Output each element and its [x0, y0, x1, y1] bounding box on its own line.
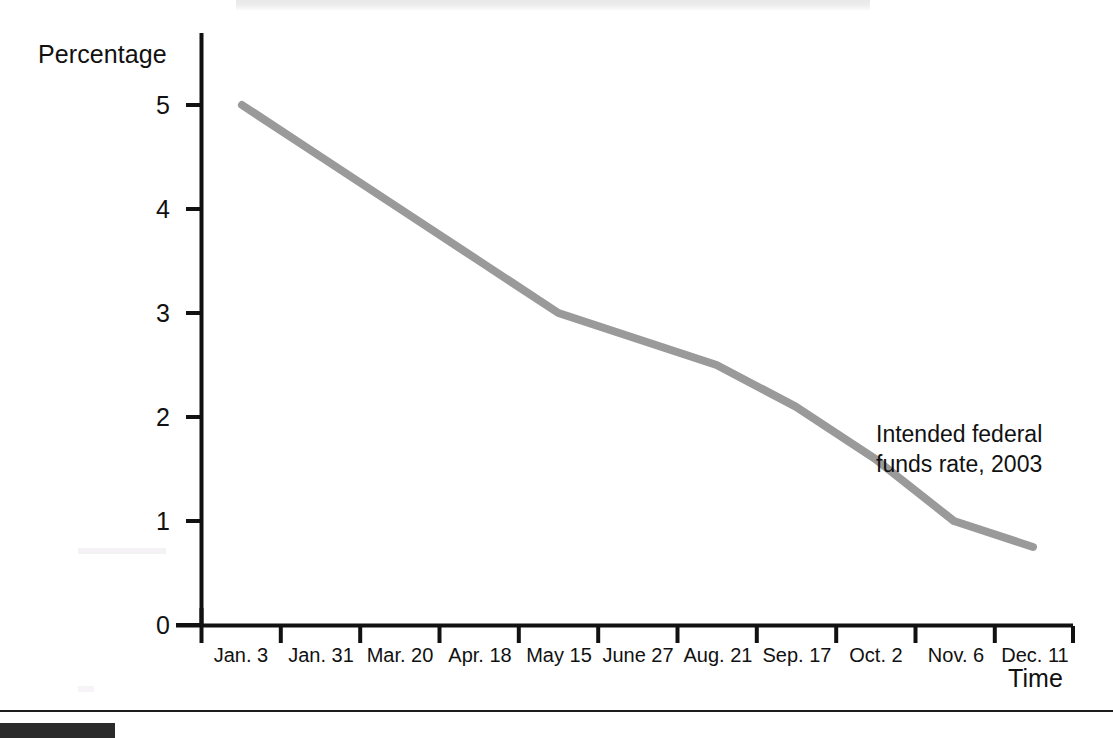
x-tick-label-dec-11: Dec. 11: [995, 644, 1075, 667]
series-annotation: Intended federal funds rate, 2003: [876, 419, 1106, 479]
data-series-line: [242, 105, 1033, 547]
y-tick-label-0: 0: [136, 611, 170, 640]
y-axis-ticks: [176, 105, 202, 625]
x-tick-label-sep-17: Sep. 17: [757, 644, 837, 667]
chart-page: Percentage Time 5 4 3 2 1 0 Jan. 3 Jan. …: [0, 0, 1113, 738]
x-axis-title: Time: [1008, 664, 1063, 693]
x-tick-label-jan-3: Jan. 3: [201, 644, 281, 667]
y-tick-label-3: 3: [136, 299, 170, 328]
x-tick-label-oct-2: Oct. 2: [836, 644, 916, 667]
x-tick-label-apr-18: Apr. 18: [440, 644, 520, 667]
x-tick-label-nov-6: Nov. 6: [916, 644, 996, 667]
x-tick-label-june-27: June 27: [598, 644, 678, 667]
y-tick-label-2: 2: [136, 403, 170, 432]
x-tick-label-aug-21: Aug. 21: [678, 644, 758, 667]
page-bottom-rule: [0, 710, 1113, 712]
series-annotation-line-1: Intended federal: [876, 419, 1106, 449]
y-axis-title: Percentage: [38, 40, 167, 69]
y-tick-label-1: 1: [136, 507, 170, 536]
x-tick-label-jan-31: Jan. 31: [281, 644, 361, 667]
y-tick-label-5: 5: [136, 91, 170, 120]
y-tick-label-4: 4: [136, 195, 170, 224]
x-tick-label-may-15: May 15: [519, 644, 599, 667]
page-bottom-block: [0, 723, 115, 738]
series-annotation-line-2: funds rate, 2003: [876, 449, 1106, 479]
x-tick-label-mar-20: Mar. 20: [360, 644, 440, 667]
